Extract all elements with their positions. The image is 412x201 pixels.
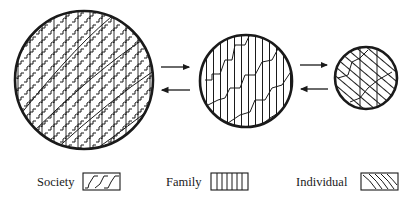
legend-swatch-society (83, 173, 120, 190)
society-circle (14, 10, 155, 150)
legend-swatch-individual (361, 173, 398, 190)
legend-label-family: Family (166, 175, 201, 189)
family-circle (198, 33, 294, 129)
legend-swatch-family (211, 173, 248, 190)
individual-circle (334, 46, 398, 110)
levels-diagram (0, 0, 412, 201)
legend-label-individual: Individual (296, 175, 347, 189)
legend-label-society: Society (37, 175, 75, 189)
